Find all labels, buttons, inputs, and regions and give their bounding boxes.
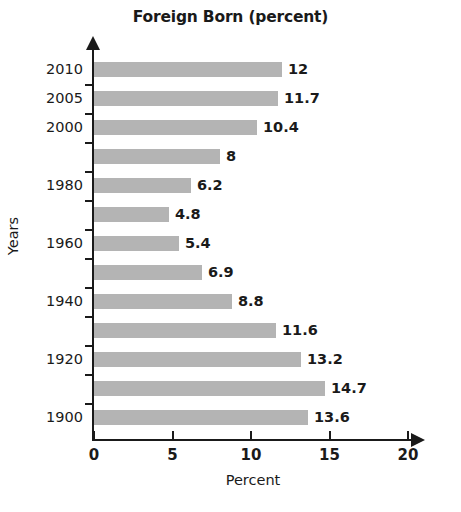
bar-value-label: 4.8	[175, 207, 201, 222]
y-tick	[85, 345, 93, 347]
bar	[94, 265, 202, 280]
y-tick-label: 1980	[3, 178, 83, 193]
y-tick-label: 1900	[3, 410, 83, 425]
bar-value-label: 13.6	[314, 410, 350, 425]
y-tick	[85, 374, 93, 376]
bar	[94, 323, 276, 338]
x-tick	[172, 431, 174, 440]
y-tick	[85, 84, 93, 86]
x-tick-label: 10	[228, 446, 274, 464]
y-axis-arrow-icon	[86, 36, 100, 50]
bar	[94, 120, 257, 135]
x-tick	[407, 431, 409, 440]
y-tick-label: 1940	[3, 294, 83, 309]
x-tick	[329, 431, 331, 440]
bar	[94, 236, 179, 251]
bar	[94, 294, 232, 309]
x-tick-label: 20	[385, 446, 431, 464]
bar-value-label: 11.7	[284, 91, 320, 106]
x-tick	[250, 431, 252, 440]
bar-value-label: 6.9	[208, 265, 234, 280]
x-tick-label: 5	[150, 446, 196, 464]
bar-value-label: 11.6	[282, 323, 318, 338]
bar	[94, 352, 301, 367]
y-tick	[85, 287, 93, 289]
bar-value-label: 8	[226, 149, 236, 164]
bar	[94, 62, 282, 77]
y-tick-label: 1920	[3, 352, 83, 367]
y-tick	[85, 258, 93, 260]
y-axis-title: Years	[5, 201, 21, 271]
y-tick	[85, 200, 93, 202]
bar-value-label: 6.2	[197, 178, 223, 193]
y-tick-label: 2005	[3, 91, 83, 106]
x-axis-line	[92, 439, 414, 441]
x-tick-label: 15	[307, 446, 353, 464]
plot-area: 1211.710.486.24.85.46.98.811.613.214.713…	[0, 0, 461, 512]
y-tick	[85, 171, 93, 173]
bar	[94, 381, 325, 396]
bar-value-label: 8.8	[238, 294, 264, 309]
y-tick	[85, 229, 93, 231]
y-tick	[85, 113, 93, 115]
bar	[94, 207, 169, 222]
x-tick-label: 0	[71, 446, 117, 464]
y-tick	[85, 142, 93, 144]
bar-value-label: 12	[288, 62, 308, 77]
bar	[94, 91, 278, 106]
bar	[94, 149, 220, 164]
bar-value-label: 14.7	[331, 381, 367, 396]
y-tick-label: 2010	[3, 62, 83, 77]
x-axis-title: Percent	[92, 472, 414, 488]
bar	[94, 410, 308, 425]
bar	[94, 178, 191, 193]
y-tick	[85, 403, 93, 405]
x-tick	[93, 431, 95, 440]
bar-chart: Foreign Born (percent) 1211.710.486.24.8…	[0, 0, 461, 512]
bar-value-label: 10.4	[263, 120, 299, 135]
bar-value-label: 13.2	[307, 352, 343, 367]
y-tick	[85, 316, 93, 318]
bar-value-label: 5.4	[185, 236, 211, 251]
y-tick-label: 2000	[3, 120, 83, 135]
x-axis-arrow-icon	[411, 433, 425, 447]
